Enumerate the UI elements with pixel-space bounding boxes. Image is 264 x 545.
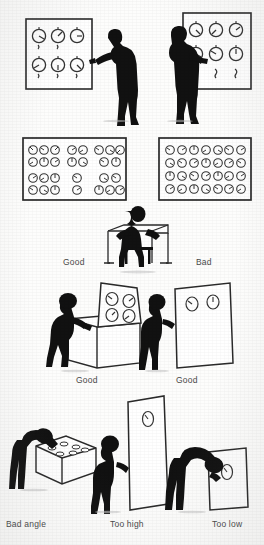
scene-grouped-dials (23, 138, 126, 200)
scene-panel-left (26, 19, 139, 126)
label-bad-angle: Bad angle (6, 519, 46, 529)
scene-too-high (91, 396, 168, 514)
scene-sloped-console (46, 283, 141, 372)
ground-shadow (178, 511, 206, 514)
ground-shadow (61, 370, 89, 373)
operator-silhouette (89, 29, 139, 126)
ergonomics-figure-page: { "figure": { "title": "Control panel an… (0, 0, 264, 545)
dial-icon (123, 295, 135, 308)
dial-icon (143, 412, 154, 427)
row-sloped-consoles (45, 275, 245, 375)
label-good-vertical: Good (176, 375, 198, 385)
row-viewing-angles (0, 392, 264, 520)
operator-silhouette (139, 294, 175, 370)
scene-bad-angle (9, 426, 96, 491)
dial-icon (106, 309, 118, 322)
ground-shadow (145, 370, 169, 373)
row-dial-arrays (0, 128, 264, 208)
row-standing-panels (0, 0, 264, 125)
scene-too-low (165, 447, 248, 513)
scene-uniform-dials (159, 138, 251, 200)
operator-silhouette (116, 206, 160, 267)
label-good-seated: Good (63, 257, 85, 267)
label-good-sloped: Good (76, 375, 98, 385)
scene-vertical-panel (139, 283, 233, 372)
label-too-low: Too low (212, 519, 242, 529)
scene-panel-right (167, 13, 251, 124)
ground-shadow (167, 120, 193, 122)
ground-shadow (120, 271, 156, 274)
vertical-panel (175, 283, 233, 368)
label-bad-uniform: Bad (196, 257, 212, 267)
ground-shadow (103, 120, 129, 122)
scene-seated-operator (98, 203, 178, 275)
ground-shadow (20, 489, 48, 492)
ground-shadow (95, 511, 121, 514)
row-seated-console (98, 203, 178, 275)
label-too-high: Too high (110, 519, 144, 529)
console-display-panel (98, 283, 141, 327)
dial-icon (123, 310, 135, 323)
dial-icon (106, 293, 118, 306)
dial-icon (207, 295, 219, 309)
dial-icon (186, 297, 198, 311)
operator-silhouette (91, 436, 129, 515)
